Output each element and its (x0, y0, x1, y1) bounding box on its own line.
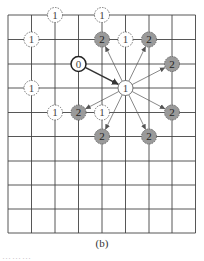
node-label: 0 (76, 58, 82, 70)
node-label: 1 (29, 82, 35, 94)
arrow-edge (132, 68, 165, 85)
node-2: 2 (142, 32, 157, 47)
node-2: 2 (95, 32, 110, 47)
node-1: 1 (48, 8, 63, 23)
node-1: 1 (95, 105, 110, 120)
node-label: 2 (146, 130, 152, 142)
node-label: 2 (169, 58, 175, 70)
node-label: 2 (99, 130, 105, 142)
node-0: 0 (71, 57, 86, 72)
node-label: 1 (52, 106, 58, 118)
node-label: 2 (76, 106, 82, 118)
node-label: 2 (99, 33, 105, 45)
node-1: 1 (24, 81, 39, 96)
node-2: 2 (165, 57, 180, 72)
node-label: 2 (169, 106, 175, 118)
node-2: 2 (95, 129, 110, 144)
node-label: 1 (99, 106, 105, 118)
arrow-edge (129, 95, 146, 130)
node-1: 1 (24, 32, 39, 47)
grid-lines (8, 15, 196, 233)
node-label: 1 (123, 82, 129, 94)
node-2: 2 (142, 129, 157, 144)
node-1: 1 (48, 105, 63, 120)
node-1: 1 (118, 81, 133, 96)
node-2: 2 (71, 105, 86, 120)
node-label: 1 (52, 9, 58, 21)
node-label: 1 (99, 9, 105, 21)
node-label: 2 (146, 33, 152, 45)
node-1: 1 (95, 8, 110, 23)
node-label: 1 (29, 33, 35, 45)
figure-caption: (b) (0, 237, 204, 249)
node-2: 2 (165, 105, 180, 120)
node-label: 1 (123, 33, 129, 45)
arrow-edge (132, 91, 165, 108)
node-1: 1 (118, 32, 133, 47)
cropped-text: ……… (2, 251, 32, 261)
